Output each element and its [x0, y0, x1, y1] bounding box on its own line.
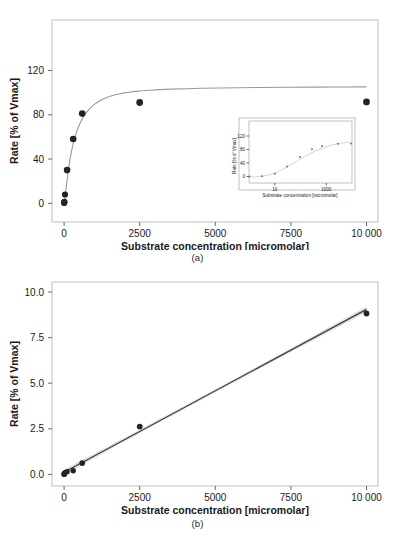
- panel-a-x-axis-title: Substrate concentration [micromolar]: [121, 240, 309, 250]
- panel-b-y-axis-title: Rate [% of Vmax]: [8, 341, 20, 427]
- panel-b: 0.0 2.5 5.0 7.5 10.0 0 2500 5000 7500 10…: [0, 268, 395, 536]
- panel-b-caption: (b): [0, 518, 395, 529]
- data-point: [249, 175, 251, 177]
- inset-ytick-0: 0: [242, 174, 245, 179]
- panel-a-inset: 0 40 80 120 10 1000 Substrate concentrat…: [232, 118, 355, 198]
- inset-y-axis-title: Rate [% of Vmax]: [232, 138, 237, 174]
- panel-b-xtick-7500: 7500: [280, 492, 303, 503]
- data-point: [321, 145, 323, 147]
- inset-ytick-120: 120: [237, 134, 245, 139]
- panel-b-xtick-2500: 2500: [129, 492, 152, 503]
- data-point: [364, 311, 370, 317]
- data-point: [79, 460, 85, 466]
- panel-b-ytick-2-5: 2.5: [30, 423, 44, 434]
- data-point: [311, 148, 313, 150]
- inset-x-axis-title: Substrate concentration [micromolar]: [262, 193, 337, 198]
- inset-xtick-10: 10: [272, 187, 278, 192]
- panel-b-xtick-0: 0: [61, 492, 67, 503]
- panel-a-plot: 0 40 80 120 0 2500 5000 7500 10 000 Subs…: [0, 0, 395, 250]
- panel-a-ytick-40: 40: [33, 154, 45, 165]
- data-point: [71, 468, 76, 473]
- panel-b-xtick-5000: 5000: [204, 492, 227, 503]
- panel-a: 0 40 80 120 0 2500 5000 7500 10 000 Subs…: [0, 0, 395, 268]
- data-point: [136, 99, 143, 106]
- data-point: [64, 167, 71, 174]
- inset-xtick-1000: 1000: [321, 187, 332, 192]
- data-point: [350, 143, 352, 145]
- data-point: [70, 136, 77, 143]
- panel-a-ytick-0: 0: [38, 198, 44, 209]
- panel-b-ytick-5-0: 5.0: [30, 378, 44, 389]
- panel-b-x-axis: 0 2500 5000 7500 10 000: [61, 486, 382, 503]
- panel-a-y-axis: 0 40 80 120: [27, 65, 52, 209]
- data-point: [363, 99, 370, 106]
- inset-ytick-80: 80: [240, 147, 246, 152]
- panel-a-caption: (a): [0, 252, 395, 263]
- panel-a-xtick-5000: 5000: [204, 228, 227, 239]
- panel-a-xtick-0: 0: [61, 228, 67, 239]
- data-point: [299, 156, 301, 158]
- panel-a-xtick-10000: 10 000: [351, 228, 382, 239]
- data-point: [286, 165, 288, 167]
- figure-container: 0 40 80 120 0 2500 5000 7500 10 000 Subs…: [0, 0, 395, 536]
- panel-a-ytick-80: 80: [33, 109, 45, 120]
- panel-b-ytick-10-0: 10.0: [25, 287, 45, 298]
- data-point: [137, 424, 143, 430]
- panel-b-x-axis-title: Substrate concentration [micromolar]: [121, 504, 309, 516]
- data-point: [261, 175, 263, 177]
- panel-a-ytick-120: 120: [27, 65, 44, 76]
- panel-b-ytick-0: 0.0: [30, 469, 44, 480]
- data-point: [274, 173, 276, 175]
- panel-a-xtick-2500: 2500: [129, 228, 152, 239]
- data-point: [337, 143, 339, 145]
- inset-plot-frame: [249, 121, 352, 183]
- inset-ytick-40: 40: [240, 161, 246, 166]
- data-point: [62, 191, 68, 197]
- panel-b-plot-frame: [52, 282, 378, 486]
- panel-a-y-axis-title: Rate [% of Vmax]: [8, 78, 20, 164]
- panel-b-plot: 0.0 2.5 5.0 7.5 10.0 0 2500 5000 7500 10…: [0, 268, 395, 518]
- data-point: [64, 469, 69, 474]
- panel-b-y-axis: 0.0 2.5 5.0 7.5 10.0: [25, 287, 52, 480]
- data-point: [61, 199, 67, 205]
- panel-b-ytick-7-5: 7.5: [30, 332, 44, 343]
- panel-a-xtick-7500: 7500: [280, 228, 303, 239]
- panel-a-x-axis: 0 2500 5000 7500 10 000: [61, 222, 382, 239]
- panel-b-xtick-10000: 10 000: [351, 492, 382, 503]
- data-point: [79, 110, 86, 117]
